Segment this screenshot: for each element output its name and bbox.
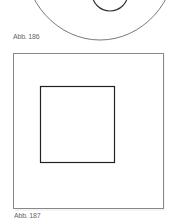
outer-square [14,54,164,209]
figure-186-circles [23,0,177,40]
caption-abb-187: Abb. 187 [14,212,40,219]
caption-abb-186: Abb. 186 [13,33,39,40]
outer-circle [23,0,177,40]
figure-187-squares [14,54,166,212]
